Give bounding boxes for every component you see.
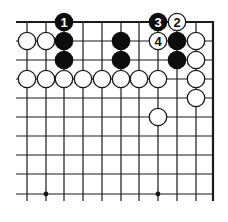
black-stone-icon <box>55 51 74 70</box>
white-stone <box>18 70 35 87</box>
white-stone-icon <box>187 32 204 49</box>
black-stone <box>168 32 187 51</box>
black-stone-3: 3 <box>149 13 168 32</box>
white-stone <box>55 70 72 87</box>
white-stone-icon <box>130 70 147 87</box>
white-stone-2: 2 <box>168 13 185 30</box>
white-stone-icon <box>18 70 35 87</box>
go-board-diagram: 1234 <box>0 0 228 222</box>
white-stone-icon <box>37 32 54 49</box>
move-number-label: 1 <box>60 15 67 30</box>
white-stone <box>187 89 204 106</box>
white-stone <box>130 70 147 87</box>
black-stone <box>55 32 74 51</box>
white-stone-icon <box>18 32 35 49</box>
white-stone-4: 4 <box>149 32 166 49</box>
white-stone <box>112 70 129 87</box>
black-stone <box>112 51 131 70</box>
white-stone-icon <box>187 70 204 87</box>
move-number-label: 3 <box>154 15 161 30</box>
white-stone-icon <box>112 70 129 87</box>
white-stone <box>187 32 204 49</box>
white-stone-icon <box>74 70 91 87</box>
white-stone-icon <box>187 89 204 106</box>
move-number-label: 2 <box>173 15 180 30</box>
white-stone <box>93 70 110 87</box>
white-stone <box>74 70 91 87</box>
black-stone <box>112 32 131 51</box>
white-stone <box>149 70 166 87</box>
black-stone-icon <box>112 32 131 51</box>
star-point <box>44 192 49 197</box>
black-stone <box>168 51 187 70</box>
white-stone <box>149 108 166 125</box>
black-stone <box>55 51 74 70</box>
black-stone-icon <box>55 32 74 51</box>
white-stone <box>37 70 54 87</box>
black-stone-1: 1 <box>55 13 74 32</box>
white-stone <box>187 70 204 87</box>
go-board: 1234 <box>0 0 228 222</box>
black-stone-icon <box>112 51 131 70</box>
black-stone-icon <box>168 51 187 70</box>
black-stone-icon <box>168 32 187 51</box>
white-stone <box>18 32 35 49</box>
star-point <box>156 192 161 197</box>
white-stone-icon <box>187 51 204 68</box>
white-stone <box>37 32 54 49</box>
white-stone-icon <box>93 70 110 87</box>
white-stone <box>187 51 204 68</box>
move-number-label: 4 <box>154 34 162 49</box>
white-stone-icon <box>149 70 166 87</box>
white-stone-icon <box>149 108 166 125</box>
white-stone-icon <box>55 70 72 87</box>
white-stone-icon <box>37 70 54 87</box>
